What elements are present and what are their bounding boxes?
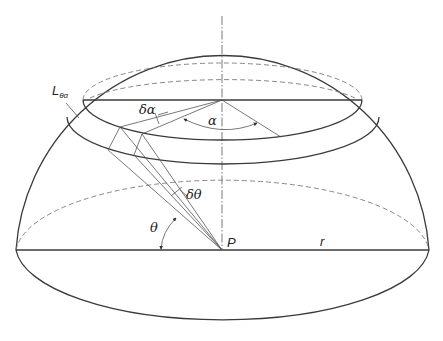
alpha-label: α [208, 114, 217, 127]
dome-outline [16, 56, 429, 250]
theta-label: θ [150, 221, 158, 234]
base-ellipse-front [16, 250, 429, 320]
ray-2 [120, 127, 222, 250]
d-alpha-label: δα [139, 103, 156, 116]
lower-ring-back [90, 80, 355, 98]
azimuth-line-1 [120, 100, 222, 127]
diagram-canvas [0, 0, 443, 341]
zone-label-leader [66, 103, 79, 118]
upper-ring-front [83, 100, 362, 140]
base-ellipse-back [16, 180, 429, 250]
radius-label: r [320, 235, 324, 248]
point-p-label: P [227, 236, 236, 249]
azimuth-line-3 [222, 100, 281, 137]
ray-1 [108, 150, 222, 250]
upper-ring-back [83, 63, 362, 100]
hemisphere-diagram: Lθα δα α δθ θ P r [0, 0, 443, 341]
ray-3 [134, 155, 222, 250]
zone-edge-1 [108, 127, 120, 150]
d-theta-label: δθ [186, 188, 202, 201]
theta-arc [161, 218, 176, 249]
zone-label: Lθα [52, 84, 68, 100]
alpha-arc [184, 119, 257, 130]
